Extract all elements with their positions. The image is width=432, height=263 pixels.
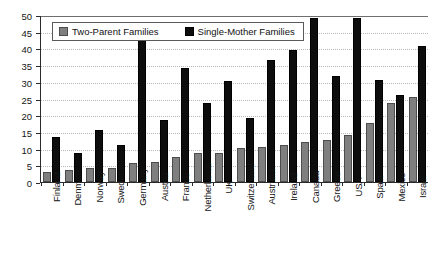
poverty-rate-bar-chart: 05101520253035404550 FinlandDenmarkNorwa… — [0, 0, 432, 263]
bar-single-mother — [332, 76, 340, 182]
x-axis-category-label: Ireland — [277, 185, 299, 263]
bar-single-mother — [310, 18, 318, 182]
bar-two-parent — [387, 103, 395, 182]
x-axis-category-labels: FinlandDenmarkNorwaySwedenGermanyAustria… — [40, 185, 428, 263]
y-axis-tick-label: 0 — [27, 178, 32, 189]
bar-two-parent — [151, 162, 159, 182]
legend-item-single-mother: Single-Mother Families — [185, 26, 295, 37]
bar-two-parent — [323, 140, 331, 182]
x-axis-category-text: Australia — [266, 169, 277, 204]
x-axis-category-text: Norway — [94, 171, 105, 202]
x-axis-category-text: Sweden — [115, 170, 126, 203]
bar-single-mother — [289, 50, 297, 182]
x-axis-category-label: Sweden — [105, 185, 127, 263]
x-axis-category-text: Greece — [331, 172, 342, 202]
bar-single-mother — [138, 38, 146, 182]
legend-label-two-parent: Two-Parent Families — [72, 26, 159, 37]
bar-two-parent — [344, 135, 352, 182]
bar-group — [342, 16, 364, 182]
x-axis-category-text: Mexico — [396, 173, 407, 202]
x-axis-category-text: Spain — [374, 175, 385, 198]
x-axis-category-label: Spain — [363, 185, 385, 263]
x-axis-category-label: USA — [342, 185, 364, 263]
x-axis-category-label: Finland — [40, 185, 62, 263]
x-axis-category-text: UK — [223, 181, 234, 194]
bar-group — [385, 16, 407, 182]
bar-single-mother — [181, 68, 189, 182]
legend-item-two-parent: Two-Parent Families — [59, 26, 159, 37]
x-axis-category-text: Germany — [137, 168, 148, 206]
x-axis-category-label: Israel — [407, 185, 429, 263]
bar-two-parent — [237, 148, 245, 182]
x-axis-category-text: Israel — [417, 176, 428, 198]
y-axis-tick-mark — [36, 183, 40, 184]
bar-two-parent — [409, 97, 417, 183]
bar-single-mother — [224, 81, 232, 182]
y-axis-tick-label: 15 — [21, 127, 32, 138]
x-axis-category-label: Norway — [83, 185, 105, 263]
bar-two-parent — [366, 123, 374, 182]
y-axis-tick-label: 40 — [21, 44, 32, 55]
legend-swatch-single-mother-icon — [185, 27, 194, 36]
bar-single-mother — [418, 46, 426, 182]
chart-legend: Two-Parent Families Single-Mother Famili… — [52, 22, 304, 41]
x-axis-category-text: Ireland — [288, 173, 299, 201]
bar-two-parent — [280, 145, 288, 182]
legend-label-single-mother: Single-Mother Families — [198, 26, 295, 37]
x-axis-category-label: Netherlands — [191, 185, 213, 263]
y-axis-tick-label: 20 — [21, 111, 32, 122]
bar-single-mother — [375, 80, 383, 182]
bar-group — [364, 16, 386, 182]
x-axis-category-label: Australia — [256, 185, 278, 263]
x-axis-category-label: Switzerland — [234, 185, 256, 263]
y-axis-tick-label: 35 — [21, 61, 32, 72]
x-axis-category-label: Denmark — [62, 185, 84, 263]
bar-group — [321, 16, 343, 182]
x-axis-category-label: Greece — [320, 185, 342, 263]
legend-swatch-two-parent-icon — [59, 27, 68, 36]
x-axis-category-text: Canada — [310, 171, 321, 203]
y-axis-tick-label: 30 — [21, 77, 32, 88]
bar-single-mother — [267, 60, 275, 182]
bar-group — [407, 16, 429, 182]
y-axis: 05101520253035404550 — [0, 0, 36, 263]
y-axis-tick-label: 45 — [21, 27, 32, 38]
x-axis-category-text: Finland — [51, 172, 62, 202]
y-axis-tick-label: 10 — [21, 144, 32, 155]
x-axis-category-text: Switzerland — [245, 164, 256, 211]
x-axis-category-text: Austria — [159, 173, 170, 201]
bar-two-parent — [194, 153, 202, 182]
y-axis-tick-label: 5 — [27, 161, 32, 172]
bar-single-mother — [353, 18, 361, 182]
y-axis-tick-label: 25 — [21, 94, 32, 105]
x-axis-category-label: France — [169, 185, 191, 263]
bar-single-mother — [396, 95, 404, 182]
x-axis-category-text: USA — [353, 178, 364, 197]
x-axis-category-label: Mexico — [385, 185, 407, 263]
x-axis-category-text: France — [180, 173, 191, 201]
y-axis-tick-label: 50 — [21, 11, 32, 22]
bar-two-parent — [215, 153, 223, 182]
x-axis-category-text: Denmark — [72, 168, 83, 205]
bar-two-parent — [301, 142, 309, 182]
x-axis-category-label: UK — [213, 185, 235, 263]
x-axis-category-label: Canada — [299, 185, 321, 263]
plot-area — [40, 16, 428, 183]
x-axis-category-label: Germany — [126, 185, 148, 263]
x-axis-category-text: Netherlands — [202, 162, 213, 211]
x-axis-category-label: Austria — [148, 185, 170, 263]
